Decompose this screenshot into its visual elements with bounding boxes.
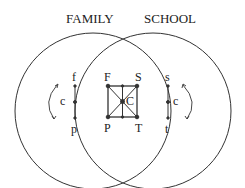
school-curved-arrow (183, 85, 192, 119)
venn-diagram (0, 0, 245, 188)
family-title: FAMILY (66, 11, 114, 27)
center-s-label: S (135, 70, 142, 85)
school-circle (75, 33, 231, 188)
family-curved-arrow (49, 85, 57, 119)
school-axis (167, 85, 170, 119)
family-bottom-label: p (71, 122, 77, 137)
family-mid-label: c (60, 94, 65, 109)
center-c-label: C (126, 94, 134, 109)
family-axis (74, 85, 77, 119)
family-circle (15, 33, 171, 188)
school-top-label: s (165, 70, 170, 85)
center-f-label: F (104, 70, 111, 85)
school-bottom-label: t (165, 122, 168, 137)
school-title: SCHOOL (144, 11, 196, 27)
center-t-label: T (135, 121, 142, 136)
school-mid-label: c (173, 94, 178, 109)
center-p-label: P (104, 121, 111, 136)
family-top-label: f (72, 70, 76, 85)
